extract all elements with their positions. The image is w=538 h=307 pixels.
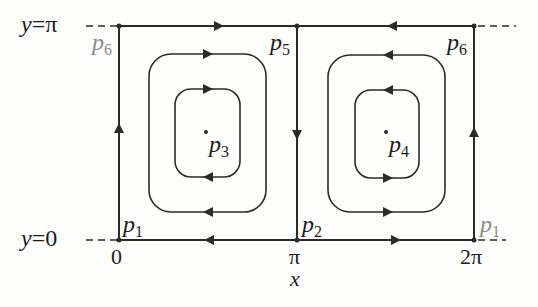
y-pi-label: yy=π=π	[19, 11, 57, 37]
p3-label: p3	[207, 131, 229, 160]
arrow-left-icon	[204, 235, 214, 245]
arrow-down-icon	[292, 130, 302, 140]
arrow-left-icon	[383, 85, 393, 95]
arrow-up-icon	[469, 127, 479, 137]
p1-ghost-label: p1	[478, 211, 500, 240]
arrow-right-icon	[203, 49, 213, 59]
p1-right-point	[472, 238, 477, 243]
p2-point	[295, 238, 300, 243]
y-zero-label: y=0	[19, 225, 57, 251]
arrow-left-icon	[203, 207, 213, 217]
p5-label: p5	[268, 29, 290, 58]
right-inner-cycle	[355, 90, 419, 178]
arrow-left-icon	[383, 50, 393, 60]
p4-label: p4	[387, 131, 409, 160]
p2-label: p2	[300, 211, 322, 240]
phase-portrait-diagram: yy=π=π y=0 0 π 2π x p6 p5 p6 p1 p2 p1 p3…	[0, 0, 538, 307]
arrow-right-icon	[214, 21, 224, 31]
p1-point	[117, 238, 122, 243]
p4-center-point	[384, 130, 388, 134]
p1-label: p1	[121, 211, 143, 240]
arrow-right-icon	[383, 173, 393, 183]
arrow-left-icon	[203, 172, 213, 182]
p6-right-point	[472, 24, 477, 29]
p6-label: p6	[445, 29, 467, 58]
arrow-right-icon	[203, 84, 213, 94]
arrow-right-icon	[391, 235, 401, 245]
x-tick-2pi: 2π	[460, 244, 482, 269]
p5-point	[295, 24, 300, 29]
arrow-right-icon	[383, 207, 393, 217]
arrow-up-icon	[114, 123, 124, 133]
p6-ghost-label: p6	[90, 29, 112, 58]
x-axis-label: x	[289, 266, 300, 291]
p3-center-point	[204, 130, 208, 134]
arrow-left-icon	[387, 21, 397, 31]
x-tick-0: 0	[111, 244, 122, 269]
p6-point	[117, 24, 122, 29]
